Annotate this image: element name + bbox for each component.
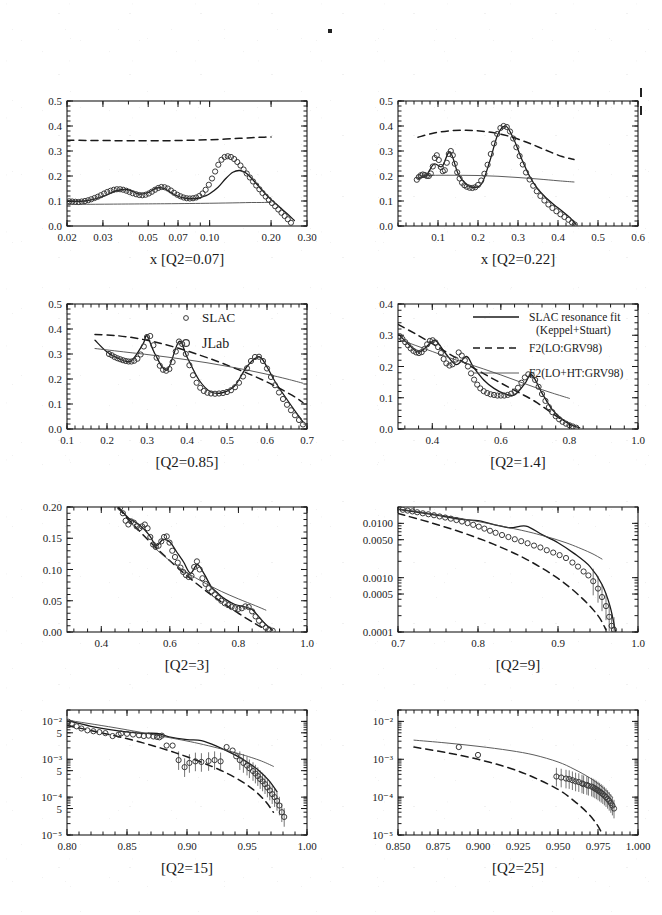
svg-text:0.30: 0.30 [297,231,317,243]
axis-tick-labels: 0.40.60.81.00.000.050.100.150.20 [43,501,315,649]
svg-text:0.5: 0.5 [48,298,62,310]
panel-q2-0p22-svg: 0.10.20.30.40.50.60.00.10.20.30.40.5x [Q… [341,80,652,283]
svg-text:0.6: 0.6 [260,434,274,446]
svg-text:0.850: 0.850 [386,840,411,852]
legend-label-f2-lo-ht: F2(LO+HT:GRV98) [529,367,624,380]
svg-text:10⁻²: 10⁻² [42,715,63,727]
svg-text:0.1: 0.1 [60,434,74,446]
svg-text:0.2: 0.2 [48,373,62,385]
panel-q2-0p07: 0.020.030.050.070.100.200.300.00.10.20.3… [10,80,321,283]
svg-text:0.5: 0.5 [220,434,234,446]
panel-q2-15: 0.800.850.900.951.0010⁻²510⁻³510⁻⁴510⁻⁵[… [10,689,321,892]
svg-text:0.4: 0.4 [425,434,439,446]
svg-text:5: 5 [57,727,63,739]
curve-dashed [67,137,271,141]
svg-text:0.90: 0.90 [177,840,197,852]
svg-text:0.3: 0.3 [511,231,525,243]
svg-text:0.4: 0.4 [48,323,62,335]
svg-text:0.80: 0.80 [57,840,77,852]
svg-text:0.10: 0.10 [200,231,220,243]
panel-q2-15-svg: 0.800.850.900.951.0010⁻²510⁻³510⁻⁴510⁻⁵[… [10,689,321,892]
svg-text:0.3: 0.3 [140,434,154,446]
svg-text:0.1: 0.1 [379,392,393,404]
svg-text:0.925: 0.925 [506,840,531,852]
svg-text:0.0001: 0.0001 [363,626,393,638]
data-series-jlab [118,505,276,633]
axis-ticks [398,507,638,632]
axis-tick-labels: 0.10.20.30.40.50.60.70.00.10.20.30.40.5 [48,298,314,446]
svg-text:5: 5 [57,803,63,815]
legend-datasets: SLACJLab [183,310,236,351]
panel-q2-0p85: 0.10.20.30.40.50.60.70.00.10.20.30.40.5[… [10,283,321,486]
axis-label: [Q2=25] [492,860,544,876]
svg-text:0.2: 0.2 [100,434,114,446]
svg-text:0.2: 0.2 [379,361,393,373]
axis-label: [Q2=3] [165,657,209,673]
svg-text:0.5: 0.5 [379,95,393,107]
axis-label: [Q2=9] [496,657,540,673]
curve-dashed [67,725,273,812]
plot-frame [67,101,307,226]
svg-text:0.4: 0.4 [379,120,393,132]
svg-text:0.10: 0.10 [43,564,63,576]
svg-text:0.2: 0.2 [48,170,62,182]
svg-text:0.2: 0.2 [379,170,393,182]
svg-text:0.2: 0.2 [471,231,485,243]
panel-q2-9: 0.70.80.91.00.01000.00500.00100.00050.00… [341,486,652,689]
svg-text:0.0: 0.0 [48,220,62,232]
panel-q2-25: 0.8500.8750.9000.9250.9500.9751.00010⁻²1… [341,689,652,892]
svg-text:10⁻³: 10⁻³ [373,753,394,765]
svg-text:1.0: 1.0 [631,434,645,446]
svg-text:0.6: 0.6 [163,637,177,649]
svg-text:0.8: 0.8 [471,637,485,649]
axis-label: x [Q2=0.07] [150,251,224,267]
svg-text:0.1: 0.1 [48,195,62,207]
curve-solid [398,509,616,632]
panel-q2-25-svg: 0.8500.8750.9000.9250.9500.9751.00010⁻²1… [341,689,652,892]
svg-text:0.950: 0.950 [546,840,571,852]
axis-tick-labels: 0.800.850.900.951.0010⁻²510⁻³510⁻⁴510⁻⁵ [41,715,317,852]
svg-text:0.3: 0.3 [379,145,393,157]
svg-text:0.4: 0.4 [180,434,194,446]
panel-q2-0p85-svg: 0.10.20.30.40.50.60.70.00.10.20.30.40.5[… [10,283,321,486]
svg-text:0.4: 0.4 [48,120,62,132]
svg-text:0.3: 0.3 [48,145,62,157]
plot-frame [398,507,638,632]
svg-text:0.975: 0.975 [586,840,611,852]
svg-text:0.0: 0.0 [379,220,393,232]
svg-text:0.20: 0.20 [261,231,281,243]
curve-solid [67,170,294,220]
svg-text:0.05: 0.05 [139,231,159,243]
axis-label: [Q2=1.4] [490,454,546,470]
svg-text:0.875: 0.875 [426,840,451,852]
panel-q2-0p07-svg: 0.020.030.050.070.100.200.300.00.10.20.3… [10,80,321,283]
svg-text:1.00: 1.00 [297,840,317,852]
svg-text:10⁻⁴: 10⁻⁴ [372,791,393,803]
panel-q2-3-svg: 0.40.60.81.00.000.050.100.150.20[Q2=3] [10,486,321,689]
panel-q2-9-svg: 0.70.80.91.00.01000.00500.00100.00050.00… [341,486,652,689]
svg-text:0.6: 0.6 [494,434,508,446]
panel-q2-1p4: 0.40.60.81.00.00.10.20.30.4[Q2=1.4]SLAC … [341,283,652,486]
legend-label-slac: SLAC [202,310,235,325]
svg-text:0.95: 0.95 [237,840,257,852]
svg-text:0.6: 0.6 [631,231,645,243]
svg-text:0.3: 0.3 [379,329,393,341]
legend-label-slac-fit: SLAC resonance fit [529,311,621,323]
svg-text:10⁻⁵: 10⁻⁵ [41,829,62,841]
curve-thin [67,202,271,204]
svg-text:0.0100: 0.0100 [363,517,394,529]
svg-text:1.0: 1.0 [300,637,314,649]
svg-text:0.0: 0.0 [48,423,62,435]
data-series-jlab [67,154,294,226]
legend-label-keppel-stuart: (Keppel+Stuart) [536,324,611,337]
axis-label: x [Q2=0.22] [481,251,555,267]
legend-label-jlab: JLab [202,336,229,351]
svg-text:0.15: 0.15 [43,532,63,544]
panel-q2-0p22: 0.10.20.30.40.50.60.00.10.20.30.40.5x [Q… [341,80,652,283]
svg-text:1.000: 1.000 [626,840,651,852]
svg-text:10⁻⁴: 10⁻⁴ [41,791,62,803]
svg-text:0.85: 0.85 [117,840,137,852]
curve-thin [153,546,266,610]
svg-text:0.02: 0.02 [57,231,76,243]
axis-ticks [67,101,307,226]
